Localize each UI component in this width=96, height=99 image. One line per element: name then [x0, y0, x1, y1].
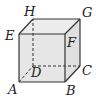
front-face: [19, 34, 65, 82]
vertex-label-A: A: [7, 82, 17, 97]
cube-diagram: H G E F D C A B: [0, 0, 96, 99]
vertex-label-B: B: [65, 83, 76, 98]
vertex-label-G: G: [82, 5, 92, 20]
vertex-label-D: D: [30, 65, 42, 80]
vertex-label-F: F: [66, 35, 77, 50]
vertex-label-E: E: [4, 28, 15, 43]
vertex-label-H: H: [23, 4, 36, 19]
vertex-label-C: C: [82, 63, 92, 78]
